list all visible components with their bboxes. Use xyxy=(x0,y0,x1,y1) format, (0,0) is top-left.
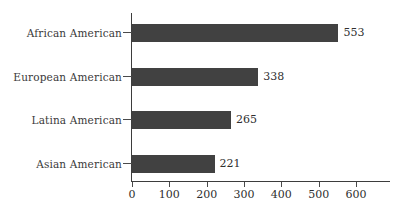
bar-0[interactable] xyxy=(132,24,338,42)
x-tick-label-6: 600 xyxy=(336,188,376,201)
x-tick-mark-5 xyxy=(319,182,320,187)
x-tick-label-5: 500 xyxy=(299,188,339,201)
bar-row-european-american[interactable]: European American 338 xyxy=(0,68,405,86)
bar-row-african-american[interactable]: African American 553 xyxy=(0,24,405,42)
x-tick-mark-0 xyxy=(132,182,133,187)
x-tick-mark-1 xyxy=(169,182,170,187)
x-tick-mark-6 xyxy=(356,182,357,187)
chart-container: African American 553 European American 3… xyxy=(0,0,405,215)
x-tick-label-1: 100 xyxy=(149,188,189,201)
x-tick-label-4: 400 xyxy=(261,188,301,201)
bar-row-asian-american[interactable]: Asian American 221 xyxy=(0,155,405,173)
bar-value-label-2: 265 xyxy=(236,111,257,129)
category-label-2: Latina American xyxy=(32,111,122,129)
category-tick-2 xyxy=(123,119,132,120)
bar-3[interactable] xyxy=(132,155,215,173)
x-tick-mark-4 xyxy=(281,182,282,187)
x-tick-label-3: 300 xyxy=(224,188,264,201)
bar-chart-plot-area: African American 553 European American 3… xyxy=(0,0,405,215)
bar-value-label-0: 553 xyxy=(343,24,364,42)
category-tick-0 xyxy=(123,32,132,33)
x-tick-label-0: 0 xyxy=(112,188,152,201)
x-tick-mark-2 xyxy=(207,182,208,187)
category-tick-3 xyxy=(123,163,132,164)
bar-value-label-1: 338 xyxy=(263,68,284,86)
category-label-1: European American xyxy=(13,68,122,86)
category-tick-1 xyxy=(123,76,132,77)
x-tick-label-2: 200 xyxy=(187,188,227,201)
category-label-0: African American xyxy=(27,24,122,42)
bar-value-label-3: 221 xyxy=(220,155,241,173)
x-tick-mark-3 xyxy=(244,182,245,187)
bar-row-latina-american[interactable]: Latina American 265 xyxy=(0,111,405,129)
bar-1[interactable] xyxy=(132,68,258,86)
bar-2[interactable] xyxy=(132,111,231,129)
category-label-3: Asian American xyxy=(36,155,122,173)
